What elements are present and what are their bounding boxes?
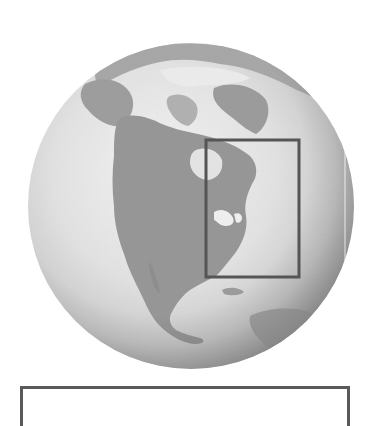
caption-box	[20, 386, 350, 426]
globe-grain	[28, 43, 354, 369]
globe-svg	[0, 0, 372, 380]
caption-text	[23, 389, 347, 397]
globe-map	[0, 0, 372, 380]
